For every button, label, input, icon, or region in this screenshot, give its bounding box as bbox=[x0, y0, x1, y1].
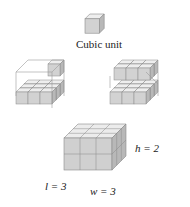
box-partial-1 bbox=[16, 60, 64, 108]
width-label: w = 3 bbox=[90, 185, 116, 197]
unit-label: Cubic unit bbox=[76, 38, 122, 50]
height-label: h = 2 bbox=[135, 142, 159, 154]
box-partial-2 bbox=[110, 60, 158, 104]
figure-canvas bbox=[0, 0, 190, 207]
box-full bbox=[64, 124, 126, 170]
unit-cube bbox=[85, 14, 104, 33]
length-label: l = 3 bbox=[45, 180, 66, 192]
